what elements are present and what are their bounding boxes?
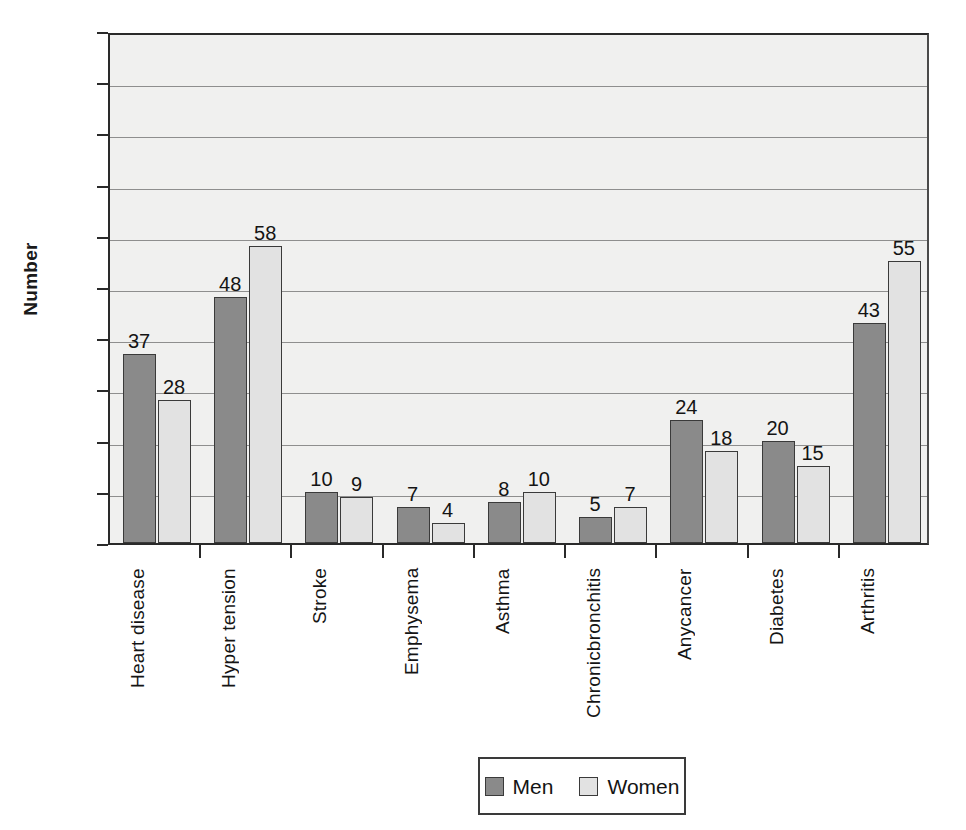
x-axis-tick xyxy=(473,545,475,558)
bar-group: 2418 xyxy=(670,35,740,543)
y-tick-mark xyxy=(97,134,108,136)
x-axis-tick xyxy=(199,545,201,558)
bar-group: 4858 xyxy=(214,35,284,543)
bar-women xyxy=(888,261,921,543)
bar-women xyxy=(797,466,830,543)
bar-group: 109 xyxy=(305,35,375,543)
x-category-label: Stroke xyxy=(308,568,364,718)
bar-women xyxy=(432,523,465,543)
bar-value-label: 43 xyxy=(846,300,892,320)
bar-men xyxy=(853,323,886,543)
x-category-label: Hyper tension xyxy=(217,568,273,718)
x-category-label: Anycancer xyxy=(673,568,729,718)
x-category-label-line: cancer xyxy=(674,568,695,626)
bar-value-label: 28 xyxy=(151,377,197,397)
bar-men xyxy=(305,492,338,543)
legend-label: Women xyxy=(607,776,679,797)
x-category-label-line: Asthma xyxy=(492,568,513,634)
x-axis-tick xyxy=(564,545,566,558)
x-axis-tick xyxy=(655,545,657,558)
legend-label: Men xyxy=(513,776,554,797)
x-category-label-line: Emphysema xyxy=(401,568,422,675)
bar-value-label: 9 xyxy=(333,474,379,494)
x-category-label-line: Arthritis xyxy=(857,568,878,634)
bar-value-label: 20 xyxy=(755,418,801,438)
y-tick-mark xyxy=(97,442,108,444)
x-category-label: Emphysema xyxy=(400,568,456,718)
y-tick-mark xyxy=(97,339,108,341)
bar-group: 74 xyxy=(397,35,467,543)
y-tick-mark xyxy=(97,32,108,34)
y-tick-mark xyxy=(97,544,108,546)
bar-men xyxy=(488,502,521,543)
bar-women xyxy=(705,451,738,543)
bar-group: 3728 xyxy=(123,35,193,543)
bar-chart-figure: Number 1009080706050403020100 3728485810… xyxy=(0,0,966,830)
y-axis-title: Number xyxy=(20,224,42,334)
bar-men xyxy=(214,297,247,543)
bar-group: 2015 xyxy=(762,35,832,543)
bar-women xyxy=(523,492,556,543)
bar-group: 810 xyxy=(488,35,558,543)
legend-item[interactable]: Women xyxy=(579,776,679,797)
x-axis-tick xyxy=(290,545,292,558)
x-category-label-line: Diabetes xyxy=(766,568,787,645)
x-category-label: Heart disease xyxy=(126,568,182,718)
x-category-label: Diabetes xyxy=(765,568,821,718)
bar-women xyxy=(158,400,191,543)
y-tick-mark xyxy=(97,237,108,239)
bar-women xyxy=(340,497,373,543)
bar-group: 57 xyxy=(579,35,649,543)
x-axis-tick xyxy=(747,545,749,558)
bar-men xyxy=(579,517,612,543)
bar-women xyxy=(614,507,647,543)
x-category-label-line: Hyper tension xyxy=(218,568,239,688)
x-axis-tick xyxy=(382,545,384,558)
bar-value-label: 10 xyxy=(516,469,562,489)
bar-value-label: 4 xyxy=(425,500,471,520)
x-axis-tick xyxy=(838,545,840,558)
bar-value-label: 37 xyxy=(116,331,162,351)
bar-value-label: 18 xyxy=(698,428,744,448)
bar-group: 4355 xyxy=(853,35,923,543)
bar-value-label: 48 xyxy=(207,274,253,294)
x-category-label: Asthma xyxy=(491,568,547,718)
x-category-label-line: Chronic xyxy=(583,651,604,718)
bar-value-label: 58 xyxy=(242,223,288,243)
x-category-label-line: Any xyxy=(674,626,695,659)
y-tick-mark xyxy=(97,83,108,85)
bar-women xyxy=(249,246,282,543)
y-tick-mark xyxy=(97,288,108,290)
x-category-label-line: Heart disease xyxy=(127,568,148,688)
bar-value-label: 55 xyxy=(881,238,927,258)
x-category-label: Arthritis xyxy=(856,568,912,718)
bar-value-label: 15 xyxy=(790,443,836,463)
bar-value-label: 24 xyxy=(663,397,709,417)
bar-value-label: 7 xyxy=(607,484,653,504)
x-category-label-line: bronchitis xyxy=(583,568,604,651)
plot-area: 372848581097481057241820154355 xyxy=(108,33,929,545)
x-category-label: Chronicbronchitis xyxy=(582,568,638,718)
y-tick-mark xyxy=(97,390,108,392)
y-tick-mark xyxy=(97,186,108,188)
legend-swatch-men xyxy=(485,777,504,796)
legend-item[interactable]: Men xyxy=(485,776,554,797)
chart-legend: MenWomen xyxy=(478,757,686,815)
x-category-label-line: Stroke xyxy=(309,568,330,624)
y-tick-mark xyxy=(97,493,108,495)
legend-swatch-women xyxy=(579,777,598,796)
